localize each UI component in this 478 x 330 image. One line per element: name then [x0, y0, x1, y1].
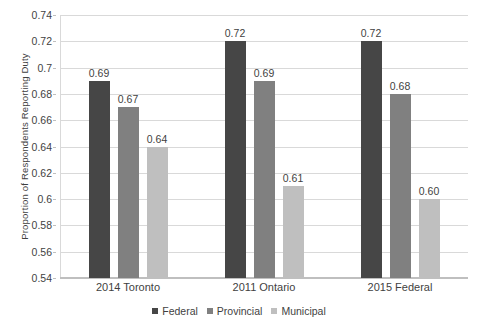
bar-value-label: 0.72	[215, 27, 255, 39]
y-axis-tick-mark	[53, 68, 56, 69]
y-axis-tick-label: 0.64	[0, 141, 52, 153]
bar-municipal-2	[419, 199, 440, 278]
x-axis-label-0: 2014 Toronto	[60, 281, 196, 293]
bar-federal-0	[89, 81, 110, 278]
y-axis-tick-mark	[53, 225, 56, 226]
x-axis-category-labels: 2014 Toronto2011 Ontario2015 Federal	[60, 281, 468, 299]
y-axis-tick-label: 0.54	[0, 272, 52, 284]
y-axis-tick-mark	[53, 147, 56, 148]
y-axis-tick-label: 0.58	[0, 219, 52, 231]
y-axis-tick-label: 0.62	[0, 167, 52, 179]
bar-value-label: 0.72	[351, 27, 391, 39]
y-axis-tick-label: 0.66	[0, 114, 52, 126]
bar-value-label: 0.69	[79, 67, 119, 79]
x-axis-label-1: 2011 Ontario	[196, 281, 332, 293]
y-axis-tick-mark	[53, 252, 56, 253]
y-axis-tick-mark	[53, 94, 56, 95]
y-axis-tick-label: 0.56	[0, 246, 52, 258]
bar-federal-1	[225, 41, 246, 278]
chart-legend: FederalProvincialMunicipal	[0, 303, 478, 319]
y-axis-tick-label: 0.74	[0, 9, 52, 21]
gridline	[60, 278, 468, 279]
plot-area: 0.690.670.640.720.690.610.720.680.60	[60, 15, 468, 278]
legend-swatch-icon	[271, 308, 277, 314]
legend-swatch-icon	[207, 308, 213, 314]
y-axis-tick-label: 0.68	[0, 88, 52, 100]
bar-federal-2	[361, 41, 382, 278]
y-axis-tick-label: 0.7	[0, 62, 52, 74]
y-axis-tick-mark	[53, 41, 56, 42]
gridline	[60, 41, 468, 42]
bar-value-label: 0.61	[273, 172, 313, 184]
y-axis-tick-mark	[53, 199, 56, 200]
legend-swatch-icon	[152, 308, 158, 314]
bar-value-label: 0.68	[380, 80, 420, 92]
legend-item-provincial[interactable]: Provincial	[207, 305, 263, 317]
bar-provincial-1	[254, 81, 275, 278]
legend-item-federal[interactable]: Federal	[152, 305, 198, 317]
y-axis-tick-mark	[53, 15, 56, 16]
bar-value-label: 0.64	[137, 133, 177, 145]
legend-item-municipal[interactable]: Municipal	[271, 305, 325, 317]
gridline	[60, 15, 468, 16]
bar-value-label: 0.67	[108, 93, 148, 105]
y-axis-tick-mark	[53, 278, 56, 279]
bar-value-label: 0.69	[244, 67, 284, 79]
bar-provincial-2	[390, 94, 411, 278]
y-axis-tick-labels: 0.540.560.580.60.620.640.660.680.70.720.…	[0, 15, 56, 278]
x-axis-label-2: 2015 Federal	[332, 281, 468, 293]
bar-chart: Proportion of Respondents Reporting Duty…	[0, 0, 478, 330]
y-axis-tick-mark	[53, 173, 56, 174]
bar-municipal-1	[283, 186, 304, 278]
bar-value-label: 0.60	[409, 185, 449, 197]
bar-provincial-0	[118, 107, 139, 278]
legend-label: Provincial	[217, 305, 263, 317]
y-axis-tick-mark	[53, 120, 56, 121]
y-axis-tick-label: 0.72	[0, 35, 52, 47]
legend-label: Federal	[162, 305, 198, 317]
bar-municipal-0	[147, 147, 168, 279]
legend-label: Municipal	[281, 305, 325, 317]
y-axis-tick-label: 0.6	[0, 193, 52, 205]
